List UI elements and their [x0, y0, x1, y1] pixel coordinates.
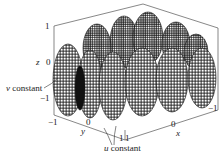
y-tick-minus1: −1: [48, 118, 58, 127]
z-axis-label: z: [36, 58, 40, 67]
x-axis-label: x: [176, 129, 180, 138]
x-tick-minus1: −1: [208, 104, 218, 113]
z-tick-minus1: −1: [40, 94, 50, 103]
u-constant-annotation: u constant: [104, 144, 141, 153]
y-tick-0: 0: [86, 118, 91, 127]
v-constant-annotation: v constant: [6, 84, 42, 93]
y-tick-1: 1: [119, 134, 124, 143]
surface-plot: [0, 0, 221, 155]
x-tick-1: 1: [125, 134, 130, 143]
z-tick-0: 0: [46, 58, 51, 67]
x-tick-0: 0: [171, 120, 176, 129]
surface-mesh: [53, 12, 216, 120]
z-tick-1: 1: [45, 22, 50, 31]
y-axis-label: y: [81, 127, 85, 136]
